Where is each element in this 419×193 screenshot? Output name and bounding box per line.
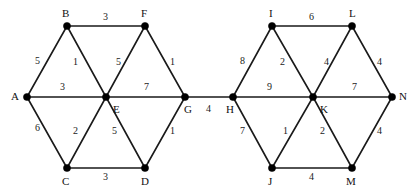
graph-vertex-j <box>268 164 275 171</box>
edge-weight-label: 1 <box>73 57 78 67</box>
edge-weight-label: 9 <box>267 82 272 92</box>
edge-weight-label: 4 <box>377 57 382 67</box>
graph-vertex-k <box>309 93 316 100</box>
graph-vertex-c <box>63 164 70 171</box>
vertex-label-g: G <box>184 104 192 115</box>
edge-weight-label: 2 <box>320 126 325 136</box>
edge-weight-label: 3 <box>103 12 108 22</box>
graph-vertex-g <box>181 93 188 100</box>
edge-weight-label: 3 <box>60 82 65 92</box>
edge-weight-label: 5 <box>112 126 117 136</box>
graph-edge <box>313 26 352 97</box>
edge-weight-label: 1 <box>170 57 175 67</box>
vertex-label-l: L <box>349 8 356 19</box>
vertex-label-d: D <box>141 176 149 187</box>
edge-weight-label: 6 <box>35 123 40 133</box>
vertex-label-f: F <box>141 8 147 19</box>
vertex-label-b: B <box>62 8 69 19</box>
edge-weight-label: 1 <box>170 126 175 136</box>
graph-edge <box>233 97 272 168</box>
edge-weight-label: 3 <box>103 172 108 182</box>
edge-weight-label: 5 <box>35 56 40 66</box>
edge-weight-label: 4 <box>206 104 211 114</box>
vertex-label-j: J <box>268 176 272 187</box>
graph-edge <box>27 97 67 168</box>
graph-edge <box>145 97 185 168</box>
graph-canvas <box>0 0 419 193</box>
graph-vertex-d <box>141 164 148 171</box>
edge-weight-label: 7 <box>352 82 357 92</box>
graph-vertex-e <box>102 93 109 100</box>
graph-edge <box>272 97 313 168</box>
vertex-label-k: K <box>320 104 328 115</box>
vertex-label-i: I <box>269 8 273 19</box>
vertex-label-n: N <box>399 91 407 102</box>
edge-weight-label: 4 <box>324 57 329 67</box>
edge-weight-label: 7 <box>144 82 149 92</box>
graph-edge <box>313 97 352 168</box>
graph-vertex-m <box>348 164 355 171</box>
graph-vertex-n <box>388 93 395 100</box>
vertex-label-e: E <box>113 104 120 115</box>
edge-weight-label: 6 <box>309 12 314 22</box>
edge-weight-label: 2 <box>73 126 78 136</box>
graph-edge <box>145 26 185 97</box>
graph-vertex-l <box>348 22 355 29</box>
graph-vertex-h <box>229 93 236 100</box>
edge-weight-label: 5 <box>116 57 121 67</box>
graph-vertex-b <box>63 22 70 29</box>
vertex-label-m: M <box>346 176 356 187</box>
edge-weight-label: 2 <box>280 57 285 67</box>
graph-edge <box>106 26 145 97</box>
graph-vertex-a <box>23 93 30 100</box>
edge-weight-label: 4 <box>309 172 314 182</box>
graph-edge <box>352 26 392 97</box>
vertex-label-a: A <box>11 91 19 102</box>
graph-edge <box>272 26 313 97</box>
graph-edge <box>352 97 392 168</box>
edges-group <box>27 26 392 168</box>
edge-weight-label: 7 <box>240 126 245 136</box>
vertex-label-c: C <box>62 176 69 187</box>
edge-weight-label: 8 <box>240 56 245 66</box>
edge-weight-label: 4 <box>377 126 382 136</box>
edge-weight-label: 1 <box>283 126 288 136</box>
graph-diagram: 5633151725314879624471244ABCDEFGHIJKLMN <box>0 0 419 193</box>
vertex-label-h: H <box>226 104 234 115</box>
graph-vertex-f <box>141 22 148 29</box>
graph-vertex-i <box>268 22 275 29</box>
